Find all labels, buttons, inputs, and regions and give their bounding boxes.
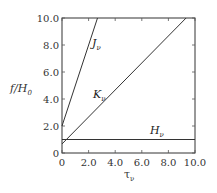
y-tick-label: 8.0 <box>43 40 59 51</box>
x-tick-label: 2.0 <box>81 157 97 168</box>
series-lines <box>62 18 195 144</box>
axis-ticks <box>62 18 195 153</box>
x-tick-label: 10.0 <box>184 157 206 168</box>
x-axis-label: τν <box>124 168 134 183</box>
x-tick-label: 6.0 <box>134 157 150 168</box>
series-label-h: Hν <box>149 124 165 139</box>
series-label-j: Jν <box>90 37 101 52</box>
series-line-0 <box>62 18 98 126</box>
series-label-k: Kν <box>92 88 106 103</box>
y-tick-label: 2.0 <box>43 121 59 132</box>
y-tick-label: 4.0 <box>43 94 59 105</box>
plot-frame <box>62 18 195 153</box>
x-tick-label: 0 <box>59 157 65 168</box>
series-line-1 <box>62 18 186 144</box>
x-tick-label: 8.0 <box>160 157 176 168</box>
y-tick-label: 10.0 <box>37 13 59 24</box>
y-tick-label: 0 <box>53 148 59 159</box>
y-tick-label: 6.0 <box>43 67 59 78</box>
x-tick-label: 4.0 <box>107 157 123 168</box>
y-axis-label: f/H0 <box>9 82 32 97</box>
chart: 02.04.06.08.010.002.04.06.08.010.0 Jν Kν… <box>0 0 217 193</box>
